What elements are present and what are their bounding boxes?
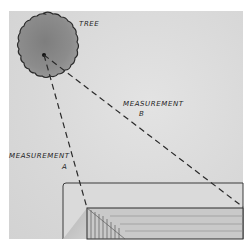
measurement-a-label: MEASUREMENT [9,152,70,160]
measurement-a-letter: A [62,163,67,171]
building [63,183,243,239]
measurement-b-label: MEASUREMENT [123,100,184,108]
measurement-b-letter: B [139,110,144,118]
measurement-diagram [0,0,251,248]
tree-label: TREE [79,20,99,28]
